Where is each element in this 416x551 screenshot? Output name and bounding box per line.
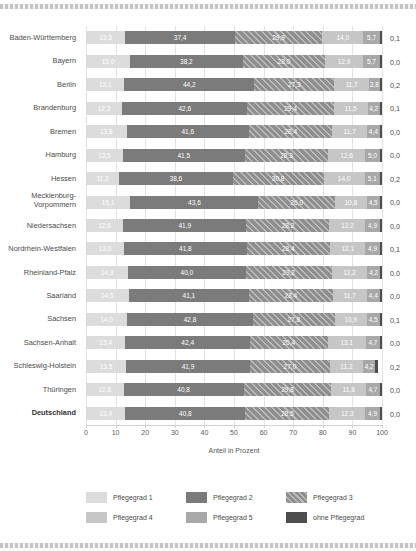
outside-value-label: 0,0 — [390, 292, 400, 301]
bar-segment: 30,8 — [233, 172, 324, 185]
bar-segment: 3,8 — [369, 78, 380, 91]
x-tick-70 — [293, 425, 294, 428]
bar-segment: 4,5 — [367, 313, 380, 326]
bar-segment — [380, 149, 382, 162]
category-label: Hamburg — [46, 151, 76, 160]
bar-segment: 4,4 — [367, 125, 380, 138]
bar-row: 11,238,630,814,05,1 — [86, 172, 382, 185]
x-tick-label-30: 30 — [171, 429, 179, 436]
bar-segment — [380, 289, 382, 302]
x-tick-40 — [204, 425, 205, 428]
outside-value-label: 0,1 — [390, 316, 400, 325]
legend-swatch-pflegegrad-5 — [186, 512, 207, 523]
legend-swatch-pflegegrad-2 — [186, 492, 207, 503]
bar-segment: 11,7 — [334, 78, 368, 91]
legend-item-pflegegrad-3[interactable]: Pflegegrad 3 — [286, 492, 386, 503]
legend-item-ohne-pflegegrad[interactable]: ohne Pflegegrad — [286, 512, 386, 523]
x-tick-80 — [323, 425, 324, 428]
bar-segment — [380, 31, 382, 44]
legend-swatch-pflegegrad-4 — [86, 512, 107, 523]
bar-segment: 13,8 — [86, 125, 127, 138]
bar-segment: 12,1 — [330, 242, 365, 255]
x-tick-20 — [145, 425, 146, 428]
bar-segment: 42,8 — [127, 313, 253, 326]
bar-segment: 14,0 — [86, 313, 127, 326]
category-label: Baden-Württemberg — [9, 34, 76, 43]
legend-swatch-pflegegrad-3 — [286, 492, 307, 503]
x-tick-60 — [264, 425, 265, 428]
legend-item-pflegegrad-1[interactable]: Pflegegrad 1 — [86, 492, 186, 503]
bar-row: 13,440,828,512,34,9 — [86, 407, 382, 420]
bar-segment: 42,6 — [122, 102, 247, 115]
legend-item-pflegegrad-4[interactable]: Pflegegrad 4 — [86, 512, 186, 523]
bar-segment: 26,4 — [250, 336, 328, 349]
bar-row: 12,541,528,312,65,0 — [86, 149, 382, 162]
x-axis-title: Anteil in Prozent — [86, 447, 382, 454]
bar-segment: 29,4 — [247, 102, 333, 115]
bar-segment: 5,1 — [365, 172, 380, 185]
bar-segment: 4,9 — [365, 407, 379, 420]
bar-segment: 12,6 — [86, 219, 123, 232]
bar-segment: 15,1 — [86, 196, 130, 209]
bar-segment: 29,2 — [246, 266, 332, 279]
bar-row: 13,144,227,311,73,8 — [86, 78, 382, 91]
bar-segment: 4,7 — [366, 336, 380, 349]
bar-segment: 42,4 — [125, 336, 250, 349]
bar-segment: 13,5 — [86, 360, 126, 373]
bar-segment: 11,7 — [333, 289, 367, 302]
x-tick-label-20: 20 — [141, 429, 149, 436]
outside-value-label: 0,0 — [390, 58, 400, 67]
bar-segment: 27,0 — [250, 360, 330, 373]
bottom-decorative-band — [0, 543, 416, 548]
category-label-column: Baden-WürttembergBayernBerlinBrandenburg… — [0, 26, 82, 425]
bar-segment — [380, 242, 382, 255]
bar-segment: 41,9 — [123, 219, 246, 232]
bar-segment: 41,6 — [127, 125, 249, 138]
bar-segment: 28,5 — [245, 407, 329, 420]
bar-segment: 27,8 — [253, 313, 335, 326]
bar-segment: 26,0 — [258, 196, 334, 209]
bar-row: 14,340,029,212,24,2 — [86, 266, 382, 279]
bar-segment: 37,4 — [125, 31, 234, 44]
category-label: Sachsen — [47, 315, 76, 324]
bar-segment: 5,0 — [365, 149, 380, 162]
bar-segment: 12,5 — [86, 149, 123, 162]
bar-segment: 28,0 — [243, 55, 325, 68]
bar-segment: 11,5 — [334, 102, 368, 115]
bar-segment — [380, 407, 382, 420]
bar-segment: 12,3 — [86, 102, 122, 115]
bar-segment: 11,7 — [332, 125, 366, 138]
bar-segment: 41,8 — [124, 242, 247, 255]
category-label: Bremen — [50, 128, 76, 137]
bar-segment: 4,2 — [367, 266, 379, 279]
x-tick-label-70: 70 — [289, 429, 297, 436]
bar-segment: 13,1 — [328, 336, 366, 349]
bar-segment: 28,3 — [245, 149, 328, 162]
x-tick-30 — [175, 425, 176, 428]
bar-segment — [380, 336, 382, 349]
stacked-bar-plot-area: 13,537,429,914,05,715,038,228,012,95,713… — [86, 26, 382, 425]
legend-swatch-pflegegrad-1 — [86, 492, 107, 503]
bar-row: 12,641,928,212,24,9 — [86, 219, 382, 232]
bar-segment: 4,9 — [365, 219, 379, 232]
x-tick-100 — [382, 425, 383, 428]
bar-segment — [380, 266, 382, 279]
category-label: Rheinland-Pfalz — [24, 269, 76, 278]
outside-value-label: 0,1 — [390, 34, 400, 43]
x-tick-label-10: 10 — [112, 429, 120, 436]
legend-label-ohne-pflegegrad: ohne Pflegegrad — [313, 514, 364, 521]
bar-row: 12,840,829,811,84,7 — [86, 383, 382, 396]
bar-segment: 14,5 — [86, 289, 129, 302]
outside-value-label: 0,0 — [390, 339, 400, 348]
x-tick-label-80: 80 — [319, 429, 327, 436]
bar-segment — [380, 219, 382, 232]
bar-segment — [380, 125, 382, 138]
legend-item-pflegegrad-5[interactable]: Pflegegrad 5 — [186, 512, 286, 523]
bar-segment: 4,2 — [368, 102, 380, 115]
bar-row: 14,042,827,810,94,5 — [86, 313, 382, 326]
x-tick-label-90: 90 — [348, 429, 356, 436]
bar-row: 13,841,628,411,74,4 — [86, 125, 382, 138]
category-label: Sachsen-Anhalt — [24, 339, 76, 348]
legend-item-pflegegrad-2[interactable]: Pflegegrad 2 — [186, 492, 286, 503]
bar-segment: 43,6 — [130, 196, 258, 209]
